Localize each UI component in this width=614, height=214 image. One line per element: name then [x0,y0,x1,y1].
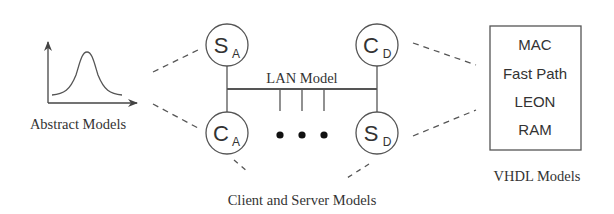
node-main-label: C [363,33,379,58]
abstract-connector-lines [153,50,198,128]
node-sub-label: D [383,135,392,149]
vhdl-models-label: VHDL Models [494,168,581,184]
node-s-d: S D [356,112,398,154]
node-c-a: C A [206,112,248,154]
node-s-a: S A [206,24,248,66]
vhdl-connector-lines [413,43,476,136]
vhdl-item-fast-path: Fast Path [503,65,567,82]
node-main-label: C [213,121,229,146]
lan-model-label: LAN Model [266,70,337,86]
ellipsis-dots-icon [276,131,327,138]
abstract-models-label: Abstract Models [30,116,127,132]
node-sub-label: D [383,47,392,61]
node-sub-label: A [232,47,240,61]
client-server-connector-lines [234,160,369,178]
node-c-d: C D [356,24,398,66]
abstract-model-plot-icon [48,42,137,103]
vhdl-item-ram: RAM [518,121,551,138]
node-main-label: S [364,121,379,146]
client-server-models-label: Client and Server Models [228,192,377,208]
node-sub-label: A [232,135,240,149]
diagram-canvas: Abstract Models LAN Model S A C D C A S … [0,0,614,214]
vhdl-item-mac: MAC [518,36,552,53]
node-main-label: S [214,33,229,58]
vhdl-item-leon: LEON [515,93,556,110]
